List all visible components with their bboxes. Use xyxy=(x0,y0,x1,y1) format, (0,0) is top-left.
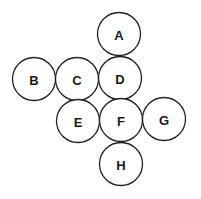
node-a: A xyxy=(98,13,141,56)
label-d: D xyxy=(115,72,124,87)
node-e: E xyxy=(57,100,100,143)
node-g: G xyxy=(143,98,186,141)
label-c: C xyxy=(72,73,82,88)
label-g: G xyxy=(159,113,169,128)
circle-diagram: A B C D E F G H xyxy=(0,0,201,199)
node-h: H xyxy=(100,143,143,186)
label-e: E xyxy=(74,115,83,130)
label-h: H xyxy=(116,158,125,173)
label-b: B xyxy=(29,73,38,88)
label-a: A xyxy=(114,28,124,43)
label-f: F xyxy=(117,114,125,129)
node-c: C xyxy=(56,58,99,101)
node-b: B xyxy=(13,58,56,101)
node-f: F xyxy=(100,99,143,142)
node-d: D xyxy=(99,57,142,100)
